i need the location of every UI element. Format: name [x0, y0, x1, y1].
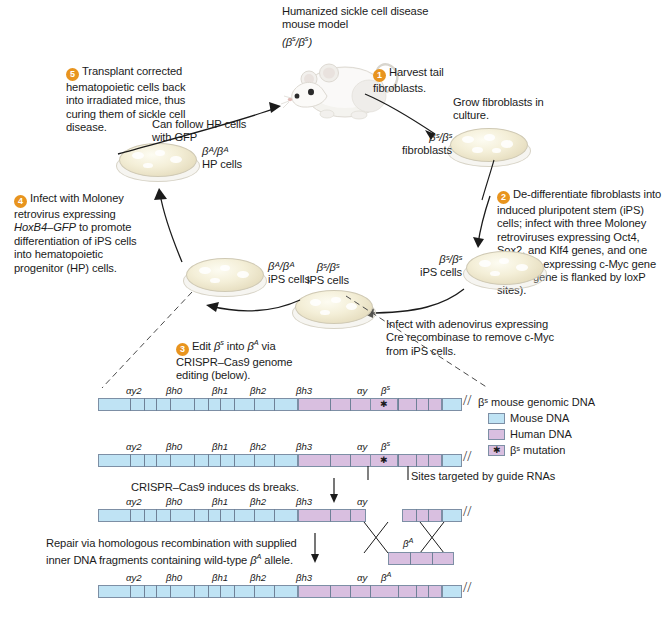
gene-label-bh0: βh0: [166, 496, 182, 507]
gene-label-bh3: βh3: [296, 572, 312, 583]
annotation-grow-fibroblasts-text: Grow fibroblasts in culture.: [453, 96, 544, 121]
legend-genomic-dna: βˢ mouse genomic DNA: [478, 396, 595, 408]
dna-segment-human-left: [298, 509, 366, 522]
gene-label-beta-s-2: βs: [381, 439, 390, 452]
annotation-can-follow-text: Can follow HP cells with GFP: [152, 118, 246, 143]
step-4-text: Infect with Moloney retrovirus expressin…: [14, 192, 137, 274]
dish-fibroblasts: [450, 128, 528, 162]
gene-label-bh1: βh1: [212, 496, 228, 507]
gene-label-ay2: αy2: [126, 496, 142, 507]
dish-ips-a-name: iPS cells: [268, 273, 310, 285]
legend-mutation-star-icon: ✱: [488, 445, 505, 456]
dish-ips-s-right-genotype: βˢ/βˢ: [439, 253, 462, 265]
dna-break-symbol-4: //: [463, 579, 471, 596]
dish-ips-a-label: βᴬ/βᴬ iPS cells: [268, 260, 338, 287]
gene-label-bh2: βh2: [250, 385, 266, 396]
legend-label-human-dna: Human DNA: [510, 428, 572, 440]
dna-break-symbol-3: //: [463, 503, 471, 520]
gene-label-bh3: βh3: [296, 441, 312, 452]
dish-ips-a-genotype: βᴬ/βᴬ: [268, 260, 294, 272]
gene-label-bh2: βh2: [250, 441, 266, 452]
legend-swatch-mouse-dna: [488, 413, 505, 424]
annotation-can-follow: Can follow HP cells with GFP: [152, 118, 252, 145]
dna-break-symbol-1: //: [463, 392, 471, 409]
arrow-repair: [310, 533, 322, 565]
step-5-badge: 5: [66, 68, 79, 81]
dish-fibroblasts-name: fibroblasts: [402, 144, 452, 156]
dna-segment-mouse: [98, 398, 298, 411]
dish-body: [186, 258, 264, 292]
donor-fragment-label: βA: [403, 536, 413, 549]
dna-segment-mouse-tail: [442, 585, 462, 598]
annotation-grow-fibroblasts: Grow fibroblasts in culture.: [453, 96, 563, 123]
donor-fragment-segment: [388, 552, 454, 565]
legend-label-mutation: βˢ mutation: [510, 444, 565, 456]
arrow-ds-breaks: [329, 478, 341, 504]
annotation-guide-rnas: Sites targeted by guide RNAs: [411, 470, 555, 482]
gene-label-ay2: αy2: [126, 385, 142, 396]
arrow-differentiate: [150, 182, 192, 266]
gene-label-ay2: αy2: [126, 572, 142, 583]
step-1-badge: 1: [373, 69, 386, 82]
dashed-expansion-lines: [96, 292, 516, 394]
dish-fibroblasts-label: βˢ/βˢ fibroblasts: [392, 131, 452, 158]
gene-label-bh1: βh1: [212, 441, 228, 452]
donor-dna-fragment: [388, 552, 454, 565]
dish-body: [450, 128, 528, 162]
dna-break-symbol-2: //: [463, 448, 471, 465]
dish-body: [466, 251, 544, 285]
dna-segment-mouse-tail: [442, 398, 462, 411]
arrow-dedifferentiate: [470, 196, 500, 256]
gene-label-ay: αy: [357, 496, 367, 507]
gene-label-beta-s-1: βs: [381, 383, 390, 396]
step-4-badge: 4: [14, 195, 27, 208]
dna-segment-mouse: [98, 509, 298, 522]
dna-segment-mouse-tail: [442, 454, 462, 467]
step-4: 4Infect with Moloney retrovirus expressi…: [14, 192, 154, 275]
gene-label-ay: αy: [357, 385, 367, 396]
gene-label-bh0: βh0: [166, 441, 182, 452]
mutation-star: ✱: [370, 399, 398, 410]
gene-label-beta-a-final: βA: [381, 570, 391, 583]
figure-title: Humanized sickle cell disease mouse mode…: [282, 5, 462, 49]
dna-segment-mouse: [98, 454, 298, 467]
gene-label-bh0: βh0: [166, 572, 182, 583]
legend-swatch-human-dna: [488, 429, 505, 440]
annotation-repair: Repair via homologous recombination with…: [46, 537, 308, 568]
gene-label-bh0: βh0: [166, 385, 182, 396]
gene-label-ay: αy: [357, 441, 367, 452]
gene-label-ay: αy: [357, 572, 367, 583]
gene-label-bh2: βh2: [250, 572, 266, 583]
dish-ips-s-right: [466, 251, 544, 285]
gene-label-bh3: βh3: [296, 385, 312, 396]
dish-hp-a-name: HP cells: [202, 158, 242, 170]
dna-row-4-repaired: [98, 585, 462, 598]
annotation-repair-text: Repair via homologous recombination with…: [46, 537, 297, 566]
dish-fibroblasts-genotype: βˢ/βˢ: [429, 131, 452, 143]
gene-label-ay2: αy2: [126, 441, 142, 452]
gene-label-bh1: βh1: [212, 385, 228, 396]
legend-label-mouse-dna: Mouse DNA: [510, 412, 569, 424]
dish-ips-s-right-label: βˢ/βˢ iPS cells: [400, 253, 462, 280]
gene-label-bh1: βh1: [212, 572, 228, 583]
gene-label-bh2: βh2: [250, 496, 266, 507]
dish-ips-a: [186, 258, 264, 292]
gene-label-bh3: βh3: [296, 496, 312, 507]
annotation-ds-breaks-text: CRISPR–Cas9 induces ds breaks.: [131, 481, 299, 493]
mutation-star: ✱: [370, 455, 398, 466]
dna-row-1: ✱: [98, 398, 462, 411]
annotation-ds-breaks: CRISPR–Cas9 induces ds breaks.: [131, 481, 341, 494]
figure-title-genotype: (βs/βs): [282, 36, 312, 48]
dna-segment-mouse: [98, 585, 298, 598]
figure-title-text: Humanized sickle cell disease mouse mode…: [282, 5, 428, 30]
dish-ips-s-right-name: iPS cells: [420, 266, 462, 278]
